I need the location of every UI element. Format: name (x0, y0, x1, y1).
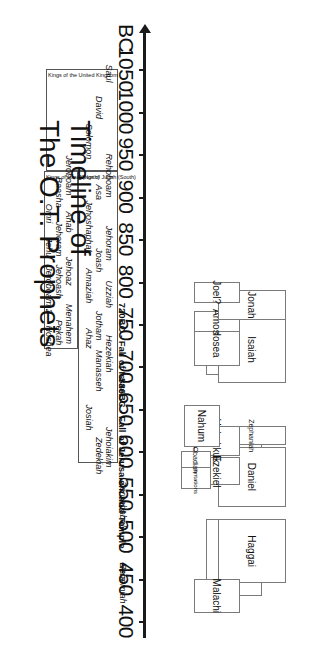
prophet-name: Jonah (247, 291, 258, 318)
king-label: Uzziah (104, 281, 114, 309)
prophet-name: Isaiah (247, 336, 258, 363)
king-label: Jehoiakim (104, 427, 114, 468)
axis-tick (139, 579, 146, 581)
prophet-box: Joel? (194, 282, 240, 303)
king-label: Saul (104, 64, 114, 82)
page-title: Timeline of The O.T. Prophets (33, 120, 96, 347)
axis-tick (139, 536, 146, 538)
prophet-box: Malachi (194, 579, 240, 613)
axis-tick (139, 112, 146, 114)
king-label: Zedekiah (94, 437, 104, 474)
figure-canvas: BC 1050100095090085080075070065060055050… (0, 0, 314, 660)
king-label: Hezekiah (104, 335, 114, 373)
axis-tick (139, 154, 146, 156)
king-label: Josiah (84, 404, 94, 430)
king-label: Rehoboam (104, 153, 114, 197)
timeline-figure: BC 1050100095090085080075070065060055050… (0, 0, 314, 660)
leader-label: Nehemiah (118, 563, 128, 604)
time-axis-arrow (139, 24, 151, 33)
axis-tick (139, 197, 146, 199)
prophet-name: Obadiah (193, 447, 200, 473)
axis-tick (139, 494, 146, 496)
title-line-1: Timeline of (65, 120, 96, 347)
axis-tick (139, 69, 146, 71)
prophet-box: Obadiah (181, 451, 211, 468)
axis-tick-label: 400 (114, 604, 138, 638)
king-label: David (94, 96, 104, 119)
prophet-box: Nahum (184, 405, 220, 447)
title-line-2: The O.T. Prophets (33, 120, 64, 347)
prophet-name: Nahum (197, 410, 208, 442)
king-label: Jehoram (104, 226, 114, 261)
axis-tick (139, 239, 146, 241)
prophet-name: Haggai (247, 535, 258, 567)
prophet-box: Haggai (218, 519, 286, 583)
axis-tick (139, 621, 146, 623)
axis-tick (139, 409, 146, 411)
axis-tick (139, 366, 146, 368)
prophet-name: Malachi (212, 579, 223, 613)
time-axis-line (143, 30, 146, 638)
prophet-name: Daniel (247, 463, 258, 491)
axis-tick (139, 324, 146, 326)
event-label: 720BC - Fall of Israel (117, 303, 128, 396)
axis-tick (139, 282, 146, 284)
leader-label: Zerubbabel (118, 481, 128, 527)
king-label: Manasseh (94, 350, 104, 392)
prophet-name: Zephaniah (249, 419, 256, 452)
prophet-name: Joel? (212, 280, 223, 304)
axis-tick (139, 451, 146, 453)
